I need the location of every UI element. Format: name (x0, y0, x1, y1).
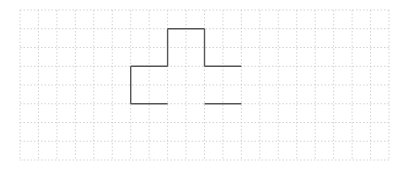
grid-diagram (0, 0, 400, 173)
